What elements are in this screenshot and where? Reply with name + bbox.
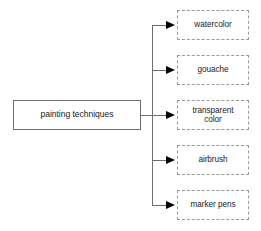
leaf-node-label: marker pens <box>189 200 238 209</box>
leaf-node-watercolor[interactable]: watercolor <box>177 10 249 40</box>
leaf-node-transparent-color[interactable]: transparentcolor <box>177 100 249 130</box>
branch-lines <box>141 25 166 205</box>
leaf-node-airbrush[interactable]: airbrush <box>177 145 249 175</box>
root-node-painting-techniques[interactable]: painting techniques <box>13 100 141 130</box>
arrowheads <box>166 21 175 209</box>
diagram-canvas: painting techniques watercolor gouache t… <box>0 0 261 231</box>
leaf-node-label: airbrush <box>196 155 229 164</box>
root-node-label: painting techniques <box>40 110 113 120</box>
leaf-node-label: transparentcolor <box>191 106 236 124</box>
leaf-node-label: watercolor <box>192 20 233 29</box>
leaf-node-label: gouache <box>195 65 230 74</box>
leaf-node-marker-pens[interactable]: marker pens <box>177 190 249 220</box>
leaf-node-gouache[interactable]: gouache <box>177 55 249 85</box>
